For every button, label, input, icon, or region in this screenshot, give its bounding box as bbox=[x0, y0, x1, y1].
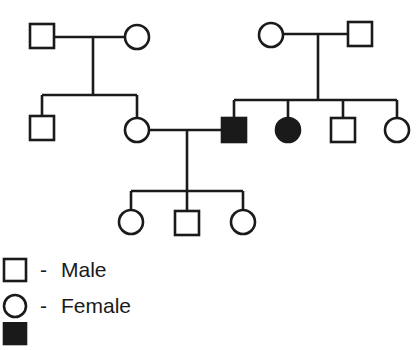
circle-symbol-icon bbox=[0, 292, 32, 320]
individual-III-1-female bbox=[119, 210, 143, 234]
legend-item-affected bbox=[0, 322, 32, 350]
individual-II-1-male bbox=[30, 116, 54, 140]
individual-I-2-female bbox=[125, 25, 149, 49]
legend-dash: - bbox=[40, 294, 47, 318]
filled-square-symbol-icon bbox=[0, 322, 32, 350]
individual-II-5-male bbox=[331, 118, 355, 142]
individual-II-3-male-affected bbox=[222, 118, 246, 142]
individual-I-4-male bbox=[348, 22, 372, 46]
individual-I-3-female bbox=[259, 23, 283, 47]
individual-II-4-female-affected bbox=[276, 118, 300, 142]
individual-III-3-female bbox=[231, 210, 255, 234]
legend-label-female: Female bbox=[61, 294, 131, 318]
individual-I-1-male bbox=[30, 24, 54, 48]
legend-label-male: Male bbox=[61, 258, 107, 282]
individual-II-2-female bbox=[125, 118, 149, 142]
legend-item-male: - Male bbox=[0, 256, 107, 284]
square-symbol-icon bbox=[0, 256, 32, 284]
individual-III-2-male bbox=[175, 211, 199, 235]
legend-item-female: - Female bbox=[0, 292, 131, 320]
individual-II-6-female bbox=[385, 118, 409, 142]
legend-dash: - bbox=[40, 258, 47, 282]
